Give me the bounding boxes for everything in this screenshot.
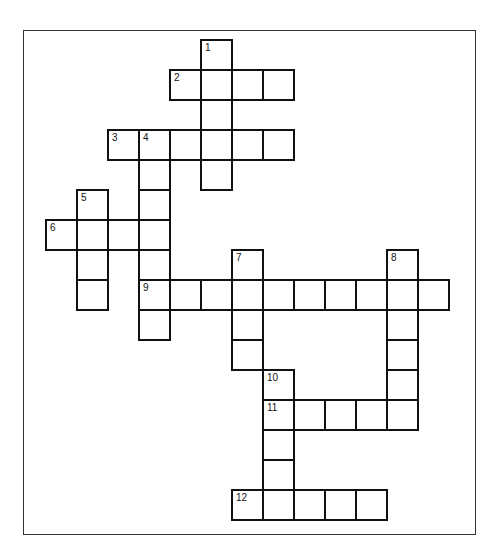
crossword-cell[interactable]	[231, 129, 264, 161]
clue-number: 7	[236, 252, 242, 263]
crossword-cell[interactable]	[324, 399, 357, 431]
crossword-cell[interactable]: 1	[200, 39, 233, 71]
crossword-cell[interactable]	[262, 69, 295, 101]
crossword-cell[interactable]	[200, 99, 233, 131]
crossword-cell[interactable]	[417, 279, 450, 311]
clue-number: 6	[50, 222, 56, 233]
crossword-cell[interactable]	[293, 279, 326, 311]
crossword-cell[interactable]	[262, 429, 295, 461]
crossword-cell[interactable]	[355, 279, 388, 311]
crossword-cell[interactable]	[386, 399, 419, 431]
crossword-cell[interactable]	[76, 219, 109, 251]
crossword-cell[interactable]: 9	[138, 279, 171, 311]
clue-number: 11	[267, 402, 277, 413]
clue-number: 5	[81, 192, 87, 203]
crossword-cell[interactable]	[138, 219, 171, 251]
clue-number: 2	[174, 72, 180, 83]
crossword-cell[interactable]	[293, 399, 326, 431]
crossword-cell[interactable]	[138, 309, 171, 341]
crossword-cell[interactable]	[324, 279, 357, 311]
crossword-cell[interactable]	[262, 129, 295, 161]
crossword-cell[interactable]	[324, 489, 357, 521]
crossword-cell[interactable]	[76, 279, 109, 311]
crossword-cell[interactable]	[169, 279, 202, 311]
crossword-cell[interactable]	[200, 129, 233, 161]
crossword-cell[interactable]: 3	[107, 129, 140, 161]
crossword-cell[interactable]	[386, 369, 419, 401]
crossword-cell[interactable]	[231, 279, 264, 311]
crossword-cell[interactable]	[138, 189, 171, 221]
crossword-cell[interactable]	[262, 489, 295, 521]
crossword-cell[interactable]: 4	[138, 129, 171, 161]
crossword-cell[interactable]	[231, 69, 264, 101]
crossword-cell[interactable]	[231, 339, 264, 371]
crossword-cell[interactable]	[386, 309, 419, 341]
clue-number: 3	[112, 132, 118, 143]
clue-number: 12	[236, 492, 247, 503]
crossword-cell[interactable]	[386, 279, 419, 311]
crossword-cell[interactable]	[138, 159, 171, 191]
crossword-cell[interactable]	[262, 279, 295, 311]
crossword-cell[interactable]	[107, 219, 140, 251]
clue-number: 4	[143, 132, 149, 143]
clue-number: 9	[143, 282, 149, 293]
crossword-cell[interactable]: 10	[262, 369, 295, 401]
crossword-cell[interactable]	[200, 159, 233, 191]
crossword-cell[interactable]	[293, 489, 326, 521]
crossword-cell[interactable]	[355, 399, 388, 431]
crossword-cell[interactable]: 11	[262, 399, 295, 431]
crossword-cell[interactable]	[386, 339, 419, 371]
crossword-cell[interactable]: 7	[231, 249, 264, 281]
crossword-cell[interactable]	[200, 279, 233, 311]
crossword-cell[interactable]: 6	[45, 219, 78, 251]
crossword-cell[interactable]	[231, 309, 264, 341]
clue-number: 10	[267, 372, 278, 383]
crossword-cell[interactable]: 8	[386, 249, 419, 281]
crossword-cell[interactable]	[262, 459, 295, 491]
crossword-cell[interactable]: 12	[231, 489, 264, 521]
crossword-cell[interactable]: 2	[169, 69, 202, 101]
crossword-cell[interactable]: 5	[76, 189, 109, 221]
clue-number: 1	[205, 42, 211, 53]
clue-number: 8	[391, 252, 397, 263]
crossword-cell[interactable]	[200, 69, 233, 101]
crossword-cell[interactable]	[76, 249, 109, 281]
crossword-grid: 123495678101112	[0, 0, 500, 558]
crossword-cell[interactable]	[138, 249, 171, 281]
crossword-cell[interactable]	[355, 489, 388, 521]
crossword-cell[interactable]	[169, 129, 202, 161]
